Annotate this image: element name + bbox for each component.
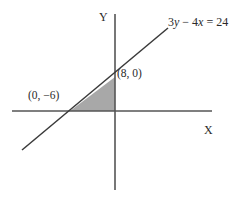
graph-figure: Y X (8, 0) (0, −6) 3y − 4x = 24 bbox=[0, 0, 252, 200]
y-axis-label: Y bbox=[99, 11, 108, 23]
x-axis-label: X bbox=[204, 124, 213, 136]
point-label-y-intercept: (8, 0) bbox=[117, 68, 142, 80]
point-label-x-intercept: (0, −6) bbox=[28, 90, 59, 102]
equation-operator: − 4 bbox=[179, 15, 198, 29]
shaded-triangle-region bbox=[70, 77, 115, 111]
equation-label: 3y − 4x = 24 bbox=[168, 16, 228, 28]
equation-result: = 24 bbox=[203, 15, 228, 29]
